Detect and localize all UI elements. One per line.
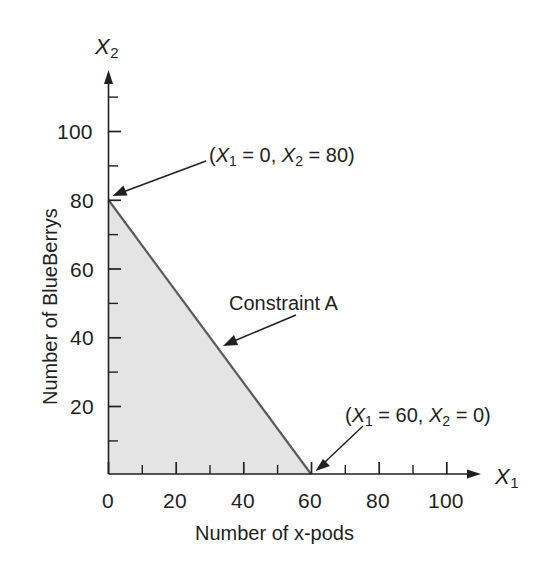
y-axis-variable-letter: X [95,34,110,59]
x-tick-label-20: 20 [163,490,187,511]
y-axis-arrowhead [104,70,113,84]
annot-top-sub-2: 2 [295,153,303,169]
x-axis-title: Number of x-pods [195,523,354,543]
annot-bottom-open-paren: ( [345,404,352,426]
annot-top-var-x1: X [216,144,229,166]
annotation-arrow-top-vertex [113,161,207,196]
annot-top-sub-1: 1 [229,153,237,169]
x-axis-variable-name: X1 [495,466,519,490]
annot-top-mid: = 0, [237,144,282,166]
annot-top-var-x2: X [282,144,295,166]
annotation-arrow-constraint [223,315,296,346]
annot-top-end: = 80) [303,144,355,166]
x-axis-variable-letter: X [495,464,510,489]
y-tick-label-20: 20 [70,396,94,417]
y-axis-variable-subscript: 2 [110,44,118,61]
annot-bottom-var-x1: X [352,404,365,426]
x-tick-label-60: 60 [298,490,322,511]
chart-canvas [0,0,549,564]
annot-bottom-end: = 0) [450,404,491,426]
y-tick-label-60: 60 [70,259,94,280]
x-tick-label-80: 80 [366,490,390,511]
y-tick-label-40: 40 [70,327,94,348]
x-axis-arrowhead [467,470,481,479]
constraint-a-label: Constraint A [229,293,338,313]
annot-bottom-sub-1: 1 [365,413,373,429]
y-tick-label-80: 80 [70,190,94,211]
y-axis-title: Number of BlueBerrys [40,208,60,405]
x-tick-label-100: 100 [428,490,464,511]
x-tick-label-0: 0 [102,490,114,511]
constraint-graph-figure: X2 X1 100 80 60 40 20 0 20 40 60 80 100 … [0,0,549,564]
x-axis-variable-subscript: 1 [510,474,518,491]
annot-bottom-var-x2: X [429,404,442,426]
annotation-bottom-vertex: (X1 = 60, X2 = 0) [345,405,491,428]
annot-top-open-paren: ( [209,144,216,166]
y-axis-variable-name: X2 [95,36,119,60]
y-tick-label-100: 100 [57,121,93,142]
annotation-top-vertex: (X1 = 0, X2 = 80) [209,145,355,168]
x-tick-label-40: 40 [231,490,255,511]
annot-bottom-mid: = 60, [373,404,429,426]
annotation-arrow-bottom-vertex [316,426,364,471]
annot-bottom-sub-2: 2 [442,413,450,429]
